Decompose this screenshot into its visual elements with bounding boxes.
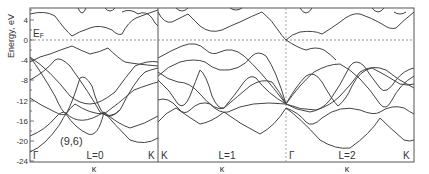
chirality-annotation: (9,6) [60, 135, 83, 147]
y-tick-label: -4 [21, 56, 29, 65]
panel2-name: L=2 [339, 150, 356, 161]
kappa-labels: κ κ κ [92, 164, 350, 174]
y-tick-label: -8 [21, 76, 29, 85]
panel2-start-label: Γ [289, 150, 295, 161]
x-axis-label: κ [345, 164, 350, 174]
panel-labels: Γ L=0 K K L=1 Γ L=2 K [33, 150, 410, 161]
y-tick-label: -12 [16, 97, 28, 106]
plot-frame [30, 8, 414, 162]
x-axis-label: κ [220, 164, 225, 174]
panel0-start-label: Γ [33, 150, 39, 161]
panel1-start-label: K [161, 150, 168, 161]
panel2-end-label: K [403, 150, 410, 161]
panel0-end-label: K [148, 150, 155, 161]
panel1-name: L=1 [219, 150, 236, 161]
y-axis-label: Energy, eV [6, 14, 16, 58]
x-axis-label: κ [92, 164, 97, 174]
panel0-name: L=0 [87, 150, 104, 161]
y-tick-labels: 4 0 -4 -8 -12 -16 -20 -24 [16, 16, 28, 166]
y-tick-label: 4 [24, 16, 29, 25]
y-tick-label: -20 [16, 137, 28, 146]
band-curves [30, 8, 414, 152]
fermi-label: EF [33, 28, 44, 39]
y-tick-label: -24 [16, 157, 28, 166]
band-structure-chart: Energy, eV 4 0 -4 -8 -12 -16 -20 -24 EF … [0, 0, 429, 174]
y-tick-label: -16 [16, 117, 28, 126]
y-tick-label: 0 [24, 36, 29, 45]
